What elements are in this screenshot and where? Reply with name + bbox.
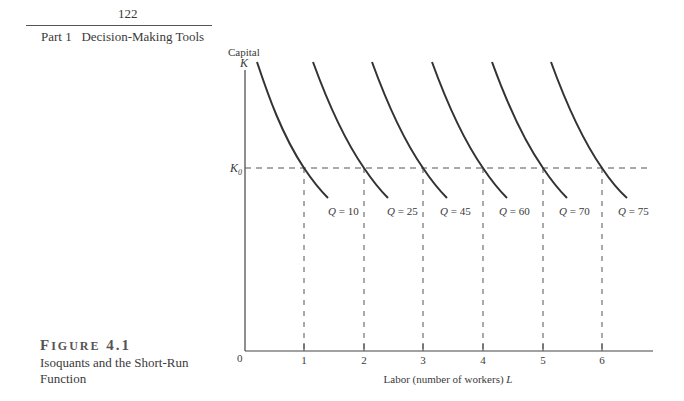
label-q70: Q = 70	[559, 205, 590, 217]
svg-text:4: 4	[480, 354, 486, 366]
isoquant-chart: Capital K K0 0 1 2 3 4 5 6 Labor (number…	[0, 0, 684, 401]
x-tick-labels: 1 2 3 4 5 6	[301, 354, 605, 366]
label-q25: Q = 25	[387, 205, 418, 217]
svg-text:2: 2	[361, 354, 367, 366]
isoquant-q60	[432, 62, 507, 198]
isoquant-labels: Q = 10 Q = 25 Q = 45 Q = 60 Q = 70 Q = 7…	[328, 205, 649, 217]
isoquant-q45	[372, 62, 447, 198]
svg-text:5: 5	[540, 354, 546, 366]
isoquant-q75	[551, 62, 627, 198]
x-axis-title: Labor (number of workers) L	[384, 373, 513, 386]
k0-label: K0	[229, 161, 242, 177]
y-axis-label: K	[239, 56, 249, 70]
isoquant-q25	[313, 62, 388, 198]
label-q60: Q = 60	[499, 205, 530, 217]
x-ticks	[304, 343, 602, 351]
isoquant-q70	[492, 62, 567, 198]
isoquant-q10	[257, 62, 328, 198]
labor-reference-lines	[304, 168, 602, 351]
label-q45: Q = 45	[440, 205, 471, 217]
svg-text:3: 3	[420, 354, 426, 366]
label-q10: Q = 10	[328, 205, 359, 217]
svg-text:1: 1	[301, 354, 307, 366]
origin-label: 0	[237, 352, 243, 364]
isoquant-curves	[257, 62, 627, 198]
svg-text:6: 6	[599, 354, 605, 366]
label-q75: Q = 75	[618, 205, 649, 217]
